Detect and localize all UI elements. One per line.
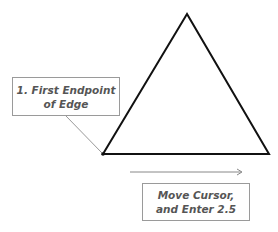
callout-1-line1: 1. First Endpoint <box>13 83 119 97</box>
callout-first-endpoint: 1. First Endpoint of Edge <box>12 77 120 116</box>
callout-2-line2: and Enter 2.5 <box>143 202 249 216</box>
callout-1-line2: of Edge <box>13 97 119 111</box>
callout-move-cursor: Move Cursor, and Enter 2.5 <box>142 183 250 221</box>
callout-2-line1: Move Cursor, <box>143 188 249 202</box>
leader-line <box>66 116 102 153</box>
triangle-shape <box>103 14 269 154</box>
endpoint-marker <box>101 152 105 156</box>
